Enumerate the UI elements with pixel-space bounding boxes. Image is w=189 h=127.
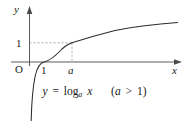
caption-paren-close: ): [143, 85, 147, 97]
caption-log-operator: log: [64, 85, 79, 97]
caption-equals: =: [52, 85, 59, 97]
log-curve-path: [31, 23, 177, 121]
equation-caption: y = loga x (a > 1): [0, 85, 189, 99]
x-axis-tick-label-a: a: [68, 65, 74, 76]
caption-condition-variable: a: [115, 85, 121, 97]
plot-canvas: [0, 0, 189, 127]
caption-log-argument: x: [87, 85, 92, 97]
x-axis-tick-label-1: 1: [41, 65, 47, 76]
caption-condition-relation: >: [126, 85, 133, 97]
caption-lhs: y: [43, 85, 48, 97]
log-curve: [31, 23, 177, 121]
origin-label: O: [15, 64, 23, 75]
x-axis: [11, 59, 182, 65]
y-axis-label: y: [14, 4, 19, 15]
x-axis-label: x: [172, 65, 177, 76]
y-axis-tick-label-1: 1: [16, 38, 22, 49]
log-function-figure: y 1 O 1 a x y = loga x (a > 1): [0, 0, 189, 127]
y-axis-arrow-icon: [27, 6, 33, 14]
caption-log-base: a: [79, 90, 83, 99]
y-axis: [27, 6, 33, 66]
